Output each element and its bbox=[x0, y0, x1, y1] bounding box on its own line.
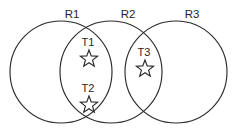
venn-diagram-svg: R1 R2 R3 T1 T2 T3 bbox=[0, 0, 238, 134]
target-label-t1: T1 bbox=[82, 36, 95, 48]
target-star-t3[interactable] bbox=[136, 60, 153, 76]
venn-diagram-canvas: R1 R2 R3 T1 T2 T3 bbox=[0, 0, 238, 134]
region-circle-r3[interactable] bbox=[125, 21, 227, 123]
region-label-r3: R3 bbox=[185, 8, 200, 20]
region-label-r1: R1 bbox=[65, 8, 80, 20]
region-circle-r2[interactable] bbox=[60, 21, 162, 123]
region-circle-r1[interactable] bbox=[10, 21, 112, 123]
region-label-r2: R2 bbox=[121, 8, 136, 20]
target-star-t1[interactable] bbox=[80, 50, 97, 66]
target-label-t3: T3 bbox=[138, 46, 151, 58]
target-label-t2: T2 bbox=[82, 82, 95, 94]
